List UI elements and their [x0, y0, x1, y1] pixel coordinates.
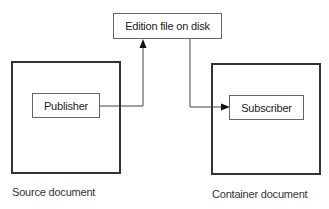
edition-to-subscriber-arrow [190, 38, 230, 111]
publisher-to-edition-arrow [99, 39, 147, 106]
edition-file-node: Edition file on disk [113, 13, 222, 39]
subscriber-node: Subscriber [229, 95, 304, 120]
publisher-label: Publisher [44, 100, 88, 112]
subscriber-label: Subscriber [241, 102, 292, 114]
edition-file-label: Edition file on disk [125, 20, 210, 32]
source-document-caption: Source document [12, 186, 95, 198]
publisher-node: Publisher [32, 93, 100, 118]
container-document-caption: Container document [212, 188, 307, 200]
